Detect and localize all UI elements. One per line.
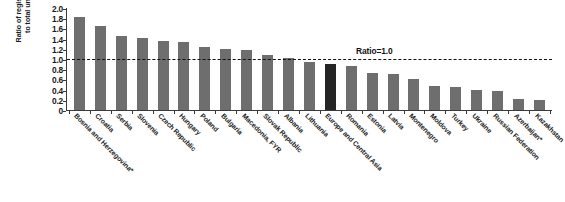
bar [178, 42, 189, 110]
y-axis-tick-mark [63, 80, 66, 81]
y-axis-tick-label: 0.6 [52, 76, 63, 84]
y-axis-tick-label: 0.8 [52, 66, 63, 74]
bar [116, 36, 127, 110]
bar [74, 17, 85, 110]
bar [492, 91, 503, 110]
x-axis-category-label: Ukraine [471, 112, 493, 134]
y-axis-tick-mark [63, 29, 66, 30]
y-axis-tick-label: 1.2 [52, 46, 63, 54]
y-axis-tick-label: 1.4 [52, 35, 63, 43]
y-axis-tick-labels: 2.01.81.61.41.21.00.80.60.40.20 [44, 8, 63, 112]
y-axis-tick-label: 1.6 [52, 25, 63, 33]
bar [513, 99, 524, 110]
x-axis-category-label: Macedonia, FYR [241, 112, 283, 154]
y-axis-tick-mark [63, 101, 66, 102]
bar [346, 66, 357, 110]
x-axis-category-label: Latvia [387, 112, 406, 131]
ratio-reference-label: Ratio=1.0 [356, 46, 393, 56]
y-axis-tick-mark [63, 40, 66, 41]
x-axis-category-label: Slovak Republic [262, 112, 304, 154]
y-axis-tick-mark [63, 60, 66, 61]
bar [325, 64, 336, 110]
bar [471, 90, 482, 110]
bar [199, 47, 210, 110]
bar [450, 87, 461, 110]
bar [95, 26, 106, 110]
bar [158, 41, 169, 110]
y-axis-tick-label: 1.8 [52, 15, 63, 23]
y-axis-title: Ratio of registered unemployed to total … [0, 0, 46, 46]
bar [367, 73, 378, 110]
bar [304, 62, 315, 110]
x-axis-category-labels: Bosnia and Herzegovina*CroatiaSerbiaSlov… [66, 112, 552, 202]
y-axis-tick-label: 0.4 [52, 86, 63, 94]
bar [534, 100, 545, 110]
x-axis-category-label: Poland [199, 112, 220, 133]
x-axis-category-label: Bulgaria [220, 112, 244, 136]
bar [283, 58, 294, 110]
y-axis-tick-mark [63, 19, 66, 20]
y-axis-tick-label: 2.0 [52, 5, 63, 13]
plot-area: Ratio=1.0 [66, 8, 552, 111]
bar [388, 74, 399, 110]
y-axis-tick-mark [63, 70, 66, 71]
x-axis-category-label: Croatia [94, 112, 115, 133]
y-axis-tick-label: 0.2 [52, 97, 63, 105]
x-axis-category-label: Turkey [450, 112, 470, 132]
bar [137, 38, 148, 110]
y-axis-tick-mark [63, 91, 66, 92]
x-axis-category-label: Serbia [115, 112, 134, 131]
x-axis-category-label: Czech Republic [157, 112, 197, 152]
y-axis-tick-label: 1.0 [52, 56, 63, 64]
bar [262, 55, 273, 110]
ratio-reference-line [67, 59, 552, 60]
y-axis-tick-mark [63, 9, 66, 10]
bar [408, 79, 419, 110]
bar [429, 86, 440, 110]
y-axis-tick-mark [63, 50, 66, 51]
